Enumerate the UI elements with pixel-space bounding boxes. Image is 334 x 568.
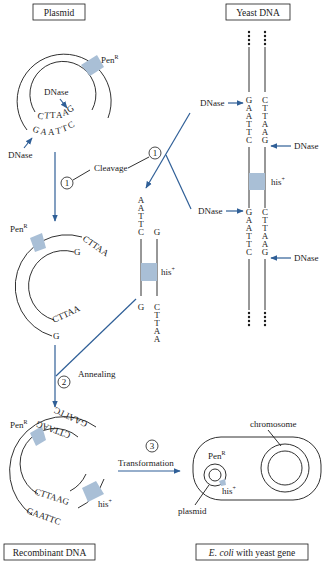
- plasmid-outer-sequence: G A A T T C: [31, 119, 76, 137]
- svg-text:1: 1: [65, 178, 70, 188]
- plasmid-title-box: Plasmid: [33, 4, 85, 20]
- svg-text:2: 2: [62, 377, 67, 387]
- ecoli-his-label: his+: [222, 485, 237, 496]
- svg-text:G: G: [262, 247, 269, 257]
- yeast-dna-title-box: Yeast DNA: [226, 4, 290, 20]
- svg-text:A: A: [40, 126, 49, 137]
- dnase-outer-label: DNase: [8, 150, 33, 160]
- svg-text:A: A: [154, 334, 161, 344]
- yeast-top-left-sequence: G A A T T C: [246, 95, 253, 145]
- ecoli-plasmid-inner: [209, 469, 221, 481]
- his-fragment: A A T T C G his+ G C T T A A: [138, 195, 176, 344]
- yeast-dna-title: Yeast DNA: [236, 8, 280, 18]
- step-3-transformation: 3 Transformation: [118, 440, 180, 471]
- fragment-left-bottom-seq: G: [138, 302, 145, 312]
- yeast-dna: G A A T T C C T T A A G DNase DNase his+…: [198, 31, 319, 326]
- fragment-right-top-seq: G: [154, 227, 161, 237]
- step-1-cleavage: 1 Cleavage 1: [61, 147, 161, 189]
- recombinant-dna-title: Recombinant DNA: [13, 548, 87, 558]
- cleaved-pen-r-label: PenR: [10, 223, 28, 234]
- transformation-label: Transformation: [118, 458, 174, 468]
- bottom-ellipsis: [248, 312, 266, 326]
- recombinant-his-label: his+: [98, 498, 113, 509]
- fragment-left-top-seq: A A T T C: [138, 195, 145, 237]
- cleaved-bottom-outer-seq: G: [53, 331, 60, 341]
- fragment-his-gene-region: [141, 263, 157, 281]
- ecoli-title-box: E. coli with yeast gene: [196, 544, 308, 560]
- plasmid-label: plasmid: [178, 506, 207, 516]
- annealing-label: Annealing: [78, 369, 116, 379]
- cleaved-bottom-inner-seq: CTTAA: [51, 303, 82, 325]
- pen-r-label: PenR: [101, 54, 119, 65]
- fragment-his-label: his+: [161, 266, 176, 277]
- cleavage-cross-line: [166, 155, 191, 209]
- recombinant-dna-diagram: Plasmid Yeast DNA PenR DNase C T T A A G…: [0, 0, 334, 568]
- recombinant-outer-seq-bottom: GAATTC: [25, 505, 62, 527]
- svg-text:1: 1: [153, 148, 158, 158]
- svg-text:G: G: [262, 135, 269, 145]
- yeast-dnase-label-3: DNase: [198, 206, 223, 216]
- chromosome-label: chromosome: [250, 419, 297, 429]
- cleaved-pen-gene-region: [30, 233, 46, 252]
- yeast-dnase-label-4: DNase: [294, 253, 319, 263]
- recombinant-inner-seq-bottom: CTTAAG: [33, 486, 71, 507]
- dnase-outer-arrow: [24, 138, 32, 148]
- cleaved-top-inner-seq: G: [74, 247, 81, 257]
- dnase-inner-label: DNase: [44, 87, 69, 97]
- yeast-top-right-sequence: C T T A A G: [262, 95, 269, 145]
- step-2-annealing: 2 Annealing: [58, 369, 116, 388]
- recombinant-outer-seq-right: GAATTC: [52, 405, 88, 429]
- ecoli-cell: chromosome PenR his+ plasmid: [178, 419, 321, 516]
- ecoli-title: E. coli with yeast gene: [208, 548, 295, 558]
- original-plasmid: PenR DNase C T T A A G G A A T T C DNase: [8, 54, 119, 160]
- yeast-dnase-label-2: DNase: [294, 141, 319, 151]
- recombinant-plasmid: PenR his+ CTTAAG GAATTC CTTAAG GAATTC: [10, 405, 113, 527]
- yeast-dnase-label-1: DNase: [200, 98, 225, 108]
- svg-text:C: C: [138, 227, 144, 237]
- chromosome-inner: [268, 451, 302, 485]
- recombinant-dna-title-box: Recombinant DNA: [4, 544, 95, 560]
- cleaved-plasmid: PenR CTTAA G CTTAA G: [10, 223, 111, 341]
- top-ellipsis: [248, 31, 266, 45]
- yeast-bottom-left-sequence: G A A T T C: [246, 207, 253, 257]
- yeast-his-gene-region: [249, 173, 265, 190]
- recombinant-pen-r-label: PenR: [10, 419, 28, 430]
- cleavage-label: Cleavage: [94, 163, 127, 173]
- svg-text:A: A: [48, 127, 55, 137]
- svg-text:C: C: [246, 247, 252, 257]
- plasmid-title: Plasmid: [44, 8, 75, 18]
- fragment-right-bottom-seq: C T T A A: [154, 302, 161, 344]
- svg-text:C: C: [246, 135, 252, 145]
- svg-text:3: 3: [150, 441, 155, 451]
- yeast-his-label: his+: [271, 176, 286, 187]
- yeast-bottom-right-sequence: C T T A A G: [262, 207, 269, 257]
- cleaved-top-outer-seq: CTTAA: [81, 233, 111, 258]
- ecoli-pen-r-label: PenR: [208, 450, 226, 461]
